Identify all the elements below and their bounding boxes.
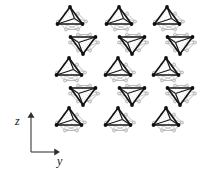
- z-axis-label: z: [14, 114, 20, 128]
- crystal-structure-figure: z y: [0, 0, 213, 169]
- y-axis-label: y: [56, 154, 63, 168]
